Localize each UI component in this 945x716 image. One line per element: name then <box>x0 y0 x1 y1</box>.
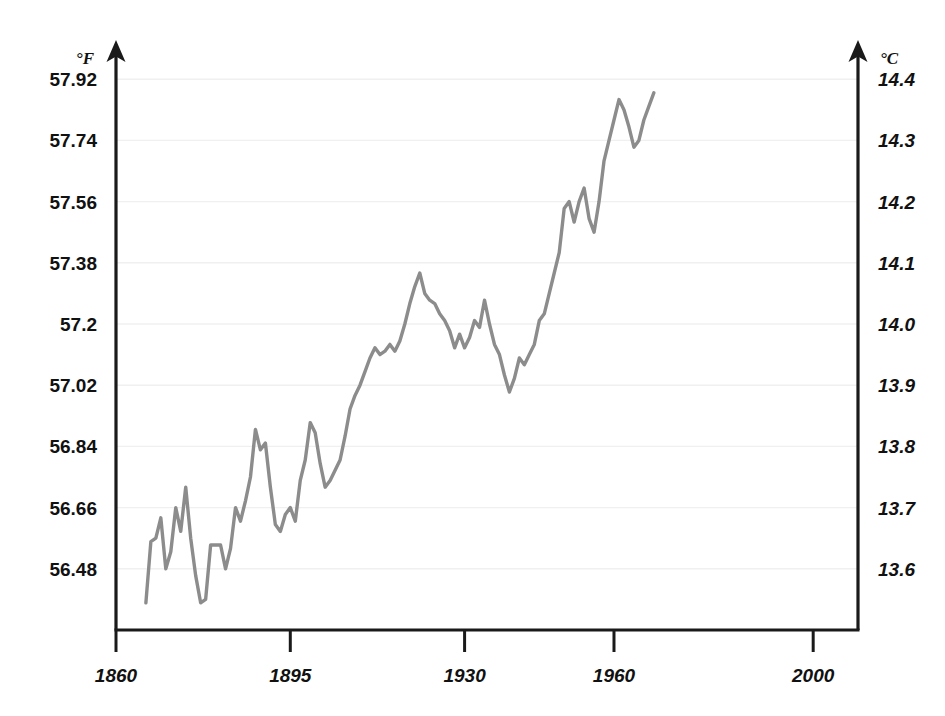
x-axis-tick-label: 2000 <box>791 665 835 686</box>
left-axis-tick-label: 56.84 <box>49 436 97 457</box>
right-axis-tick-label: 14.2 <box>878 192 915 213</box>
left-axis-tick-label: 56.66 <box>49 498 97 519</box>
chart-canvas: 56.4856.6656.8457.0257.257.3857.5657.745… <box>0 0 945 716</box>
axes-group <box>107 40 868 630</box>
x-axis-tick-label: 1960 <box>593 665 636 686</box>
left-axis-tick-label: 57.74 <box>49 130 97 151</box>
right-axis-tick-labels: 13.613.713.813.914.014.114.214.314.4 <box>878 69 916 580</box>
x-axis-tick-label: 1895 <box>269 665 312 686</box>
temperature-series-group <box>146 93 654 603</box>
left-axis-tick-label: 57.2 <box>60 314 97 335</box>
x-axis-tick-label: 1930 <box>443 665 486 686</box>
left-axis-tick-label: 57.56 <box>49 192 97 213</box>
right-axis-tick-label: 14.3 <box>878 130 915 151</box>
temperature-line <box>146 93 654 603</box>
right-axis-tick-label: 13.8 <box>878 436 915 457</box>
left-axis-tick-label: 56.48 <box>49 559 97 580</box>
left-axis-tick-label: 57.38 <box>49 253 97 274</box>
right-axis-unit-label: °C <box>880 49 899 68</box>
right-axis-tick-label: 13.9 <box>878 375 915 396</box>
right-axis-tick-label: 14.1 <box>878 253 915 274</box>
x-axis-tick-label: 1860 <box>95 665 138 686</box>
right-axis-tick-label: 13.7 <box>878 498 916 519</box>
gridlines-group <box>116 79 858 569</box>
left-axis-tick-label: 57.92 <box>49 69 97 90</box>
x-tick-marks-group <box>116 630 813 652</box>
right-axis-tick-label: 14.4 <box>878 69 915 90</box>
left-axis-tick-labels: 56.4856.6656.8457.0257.257.3857.5657.745… <box>49 69 97 580</box>
right-axis-tick-label: 14.0 <box>878 314 915 335</box>
left-axis-tick-label: 57.02 <box>49 375 97 396</box>
left-axis-unit-label: °F <box>76 49 95 68</box>
right-axis-tick-label: 13.6 <box>878 559 915 580</box>
x-axis-tick-labels: 18601895193019602000 <box>95 665 835 686</box>
global-temperature-chart: 56.4856.6656.8457.0257.257.3857.5657.745… <box>0 0 945 716</box>
